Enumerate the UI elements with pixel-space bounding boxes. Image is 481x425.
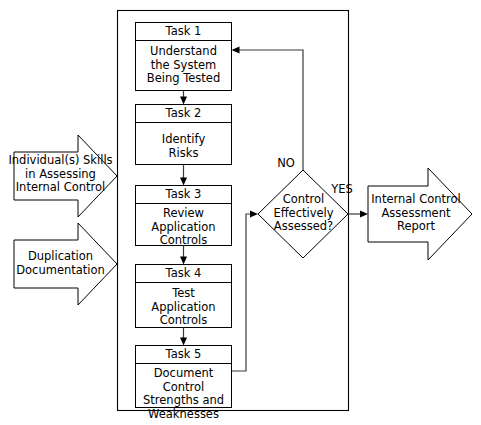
connector-task1-to-task2: [180, 91, 187, 105]
flowchart-canvas: [0, 0, 481, 425]
output-arrow-report-shape[interactable]: [368, 168, 472, 260]
task-5-shape[interactable]: [136, 346, 232, 408]
decision-diamond-shape[interactable]: [258, 170, 348, 258]
connector-yes-branch-to-report: [348, 211, 368, 218]
connector-task2-to-task3: [180, 165, 187, 186]
connector-task5-to-decision: [232, 211, 259, 372]
task-2-shape[interactable]: [136, 105, 232, 165]
task-3-shape[interactable]: [136, 186, 232, 246]
flowchart-diagram: Task 1 Understand the System Being Teste…: [0, 0, 481, 425]
connector-no-branch-to-task1: [232, 47, 304, 171]
connector-task3-to-task4: [180, 246, 187, 265]
input-arrow-skills-shape[interactable]: [14, 135, 117, 217]
input-arrow-documentation-shape[interactable]: [14, 223, 117, 305]
task-1-shape[interactable]: [136, 23, 232, 91]
connector-task4-to-task5: [180, 328, 187, 346]
task-4-shape[interactable]: [136, 265, 232, 328]
